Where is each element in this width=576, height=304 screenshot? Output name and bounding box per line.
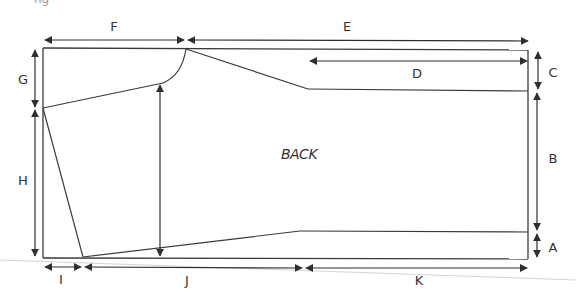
dim-label-F: F bbox=[110, 19, 117, 34]
dim-label-A: A bbox=[549, 240, 558, 255]
page-guide-line bbox=[0, 260, 576, 280]
dim-label-H: H bbox=[18, 173, 28, 188]
dim-label-D: D bbox=[412, 66, 422, 81]
dim-label-C: C bbox=[548, 65, 557, 80]
dim-label-I: I bbox=[59, 272, 63, 287]
dim-label-B: B bbox=[549, 151, 558, 166]
dim-J-arrow bbox=[85, 267, 302, 268]
dim-E-arrow bbox=[188, 40, 528, 41]
dim-label-E: E bbox=[343, 19, 351, 34]
dim-label-J: J bbox=[185, 273, 189, 288]
dim-label-G: G bbox=[18, 72, 28, 87]
dim-label-K: K bbox=[415, 273, 424, 288]
piece-label: BACK bbox=[281, 146, 317, 162]
